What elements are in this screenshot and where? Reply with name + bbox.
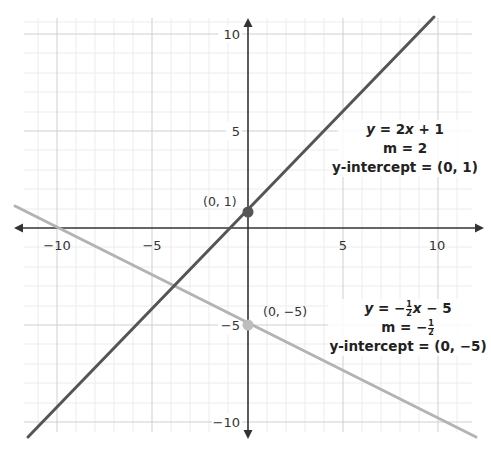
tick-x-neg5: −5 <box>142 238 161 253</box>
tick-x-neg10: −10 <box>43 238 70 253</box>
equation-box-line1: y = 2x + 1 m = 2 y-intercept = (0, 1) <box>338 120 472 177</box>
slope-line2: m = −12 <box>328 318 488 337</box>
line-y-2x-plus-1 <box>28 17 434 437</box>
tick-x-5: 5 <box>339 238 347 253</box>
x-axis-right-arrow-icon <box>475 224 484 233</box>
tick-y-10: 10 <box>223 27 240 42</box>
point-0-1 <box>243 207 254 218</box>
tick-y-5: 5 <box>232 124 240 139</box>
y-axis-down-arrow-icon <box>244 430 253 439</box>
tick-x-10: 10 <box>429 238 446 253</box>
intercept-line2: y-intercept = (0, −5) <box>320 337 491 356</box>
equation-box-line2: y = −12x − 5 m = −12 y-intercept = (0, −… <box>328 299 488 356</box>
slope-line1: m = 2 <box>338 139 472 158</box>
coordinate-plane: −10 −5 5 10 10 5 −5 −10 (0, 1) (0, −5) <box>0 0 491 451</box>
fraction-half: 12 <box>406 301 412 318</box>
tick-y-neg5: −5 <box>221 318 240 333</box>
tick-y-neg10: −10 <box>213 415 240 430</box>
x-axis-left-arrow-icon <box>14 224 23 233</box>
point-0-neg5 <box>243 320 254 331</box>
fraction-half-slope: 12 <box>428 320 434 337</box>
intercept-line1: y-intercept = (0, 1) <box>324 158 486 177</box>
point-label-0-1: (0, 1) <box>203 194 237 209</box>
equation-line1: y = 2x + 1 <box>338 120 472 139</box>
equation-line2: y = −12x − 5 <box>328 299 488 318</box>
point-label-0-neg5: (0, −5) <box>263 304 307 319</box>
